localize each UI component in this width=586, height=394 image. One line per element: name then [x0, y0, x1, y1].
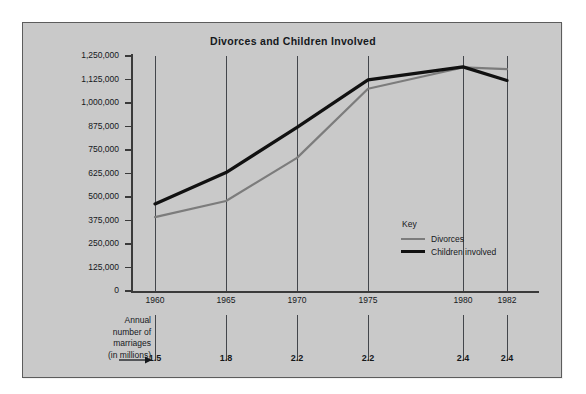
legend-key: Key Divorces Children involved — [401, 219, 496, 258]
series-line-children-involved — [155, 67, 507, 204]
legend-item-divorces: Divorces — [401, 232, 496, 245]
marriages-annotation-line: Annual — [35, 315, 151, 327]
marriages-annotation-line: marriages — [35, 338, 151, 350]
legend-swatch-children — [401, 250, 425, 253]
series-line-divorces — [155, 67, 507, 217]
chart-panel: Divorces and Children Involved 0125,0002… — [22, 22, 562, 378]
legend-item-children: Children involved — [401, 245, 496, 258]
legend-label-children: Children involved — [431, 247, 496, 257]
marriages-annotation-line: number of — [35, 327, 151, 339]
legend-label-divorces: Divorces — [431, 234, 464, 244]
marriages-arrow-icon — [119, 355, 153, 365]
chart-figure: Divorces and Children Involved 0125,0002… — [0, 0, 586, 394]
legend-swatch-divorces — [401, 238, 425, 240]
legend-title: Key — [401, 219, 496, 229]
